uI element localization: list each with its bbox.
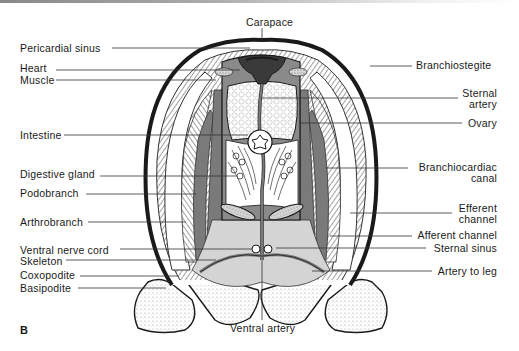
label-heart: Heart	[20, 63, 47, 74]
label-ovary: Ovary	[468, 118, 497, 129]
label-sternal-artery: Sternal artery	[462, 88, 497, 110]
label-branchiocardiac-canal: Branchiocardiac canal	[419, 162, 497, 184]
label-efferent-channel: Efferent channel	[459, 203, 497, 225]
label-artery-to-leg: Artery to leg	[438, 266, 497, 277]
label-muscle: Muscle	[20, 75, 54, 86]
panel-label: B	[20, 324, 28, 336]
label-sternal-sinus: Sternal sinus	[434, 243, 497, 254]
label-digestive-gland: Digestive gland	[20, 169, 95, 180]
label-afferent-channel: Afferent channel	[418, 230, 497, 241]
label-skeleton: Skeleton	[20, 256, 62, 267]
label-intestine: Intestine	[20, 130, 62, 141]
label-coxopodite: Coxopodite	[20, 270, 75, 281]
label-arthrobranch: Arthrobranch	[20, 217, 83, 228]
label-basipodite: Basipodite	[20, 283, 71, 294]
label-pericardial-sinus: Pericardial sinus	[20, 43, 100, 54]
label-ventral-artery: Ventral artery	[230, 323, 295, 334]
intestine	[248, 130, 272, 154]
label-podobranch: Podobranch	[20, 188, 79, 199]
label-branchiostegite: Branchiostegite	[416, 60, 491, 71]
label-carapace: Carapace	[246, 17, 293, 28]
